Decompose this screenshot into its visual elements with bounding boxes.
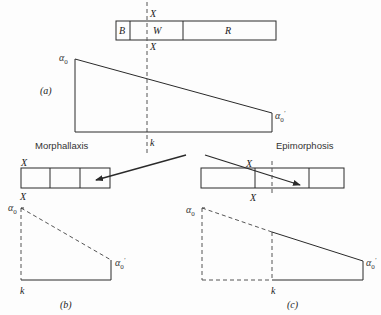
panel-b-alpha-left: α0: [8, 203, 17, 216]
panel-b-bar: [21, 168, 110, 188]
panel-c-bar-label-top: X: [246, 159, 252, 169]
panel-b-bar-label-top: X: [21, 158, 27, 168]
cut-label-bottom: X: [150, 42, 156, 52]
panel-c-alpha-left: α0: [186, 205, 195, 218]
diagram-drawing: [0, 0, 381, 315]
segment-label-b: B: [119, 26, 125, 36]
arrow-epimorphosis: [205, 155, 300, 185]
panel-b-bar-label-bottom: X: [20, 192, 26, 202]
panel-c-alpha-right: α0′: [366, 257, 376, 271]
panel-a-alpha-left: α0: [59, 53, 68, 66]
segment-label-w: W: [153, 26, 161, 36]
panel-c-bar-label-bottom: X: [250, 193, 256, 203]
panel-a-label: (a): [40, 86, 52, 96]
regeneration-diagram: B W R X X (a) α0 α0′ k Morphallaxis Epim…: [0, 0, 381, 315]
panel-a-alpha-right: α0′: [275, 110, 285, 124]
panel-a-cut-level-k: k: [150, 138, 154, 148]
segment-label-r: R: [225, 26, 231, 36]
panel-b-label: (b): [60, 300, 72, 310]
panel-a-gradient: [75, 59, 272, 132]
panel-b-gradient: [21, 208, 111, 280]
morphallaxis-label: Morphallaxis: [35, 141, 88, 151]
panel-b-alpha-right: α0′: [115, 257, 125, 271]
panel-b-cut-level-k: k: [20, 286, 24, 296]
panel-c-gradient: [202, 208, 363, 280]
epimorphosis-label: Epimorphosis: [276, 141, 334, 151]
top-body-bar: [116, 21, 276, 40]
panel-c-bar: [201, 161, 344, 194]
panel-c-cut-level-k: k: [271, 286, 275, 296]
cut-label-top: X: [150, 9, 156, 19]
panel-c-label: (c): [287, 300, 298, 310]
